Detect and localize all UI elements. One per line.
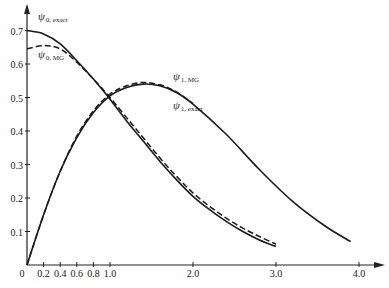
y-tick-label: 0.7	[11, 26, 24, 37]
curve-labels: ψ0, exactψ0, MGψ1, exactψ1, MG	[38, 10, 203, 113]
y-tick-label: 0.2	[11, 193, 24, 204]
psi1-exact-label: ψ1, exact	[173, 99, 203, 113]
psi0-exact-label: ψ0, exact	[38, 10, 68, 24]
y-tick-label: 0.6	[11, 59, 24, 70]
chart: 0.10.20.30.40.50.60.700.20.40.60.81.02.0…	[0, 0, 389, 288]
y-tick-label: 0.5	[11, 93, 24, 104]
psi0-mg-label: ψ0, MG	[38, 48, 64, 62]
x-tick-label: 0.4	[54, 268, 67, 279]
x-tick-label: 2.0	[187, 268, 200, 279]
x-axis-arrow-icon	[374, 262, 385, 268]
psi1-mg-label: ψ1, MG	[173, 70, 199, 84]
y-tick-label: 0.3	[11, 160, 24, 171]
x-tick-label: 0.8	[87, 268, 100, 279]
psi1-mg-curve	[27, 82, 193, 265]
x-tick-label: 0.6	[71, 268, 84, 279]
psi0-mg-curve	[27, 46, 276, 245]
curves	[27, 31, 351, 266]
y-tick-label: 0.4	[11, 126, 24, 137]
axes: 0.10.20.30.40.50.60.700.20.40.60.81.02.0…	[11, 4, 386, 279]
x-tick-label: 3.0	[270, 268, 283, 279]
x-tick-label: 1.0	[104, 268, 117, 279]
y-axis-arrow-icon	[24, 4, 30, 14]
x-tick-label: 0	[20, 268, 25, 279]
x-tick-label: 0.2	[37, 268, 50, 279]
psi0-exact-curve	[27, 31, 276, 247]
y-tick-label: 0.1	[11, 227, 24, 238]
x-tick-label: 4.0	[353, 268, 366, 279]
